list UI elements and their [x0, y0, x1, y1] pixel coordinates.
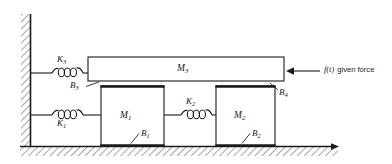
spring-k2-exit: [206, 110, 213, 115]
spring-k1-coil-3: [70, 110, 76, 119]
spring-k2-coil-2: [193, 110, 199, 119]
force-arrow-head: [286, 67, 294, 74]
wall-hatching: [21, 14, 30, 147]
ground-hatching: [20, 147, 338, 156]
spring-k3-entry: [52, 68, 59, 73]
spring-label-k3: K3: [57, 55, 66, 65]
damper-label-b1: B1: [141, 129, 150, 139]
fixed-wall: [21, 14, 31, 147]
applied-force-label: f(t)given force: [324, 66, 374, 74]
damper-b3-leader: [86, 82, 99, 87]
spring-k1-entry: [52, 110, 59, 115]
spring-k1-coil-2: [64, 110, 70, 119]
spring-k1: [31, 110, 101, 119]
mass-m1-body: [100, 86, 164, 146]
spring-k3-coil-2: [64, 68, 70, 77]
spring-k3: [31, 68, 88, 77]
damper-label-b4: B4: [279, 88, 288, 98]
fixed-ground: [20, 143, 339, 156]
spring-label-k1: K1: [57, 119, 66, 129]
spring-label-k2: K2: [186, 97, 195, 107]
spring-k2-entry: [181, 110, 188, 115]
spring-k3-coil-1: [58, 68, 64, 77]
mass-m1-outline: [101, 86, 164, 146]
mass-m2-outline: [216, 86, 275, 146]
spring-k2: [164, 110, 216, 119]
spring-k2-coil-1: [187, 110, 193, 119]
damper-label-b3: B3: [70, 81, 79, 91]
spring-k3-coil-3: [70, 68, 76, 77]
damper-label-b2: B2: [252, 129, 261, 139]
spring-k3-exit: [77, 68, 84, 73]
diagram-canvas: [0, 0, 392, 164]
mass-label-m1: M1: [120, 111, 131, 122]
mass-label-m2: M2: [234, 111, 245, 122]
mass-m2-body: [215, 86, 275, 146]
mechanical-system-diagram: M3 M1 M2 K3 K1 K2 B3 B4 B1 B2 f(t)given …: [0, 0, 392, 164]
spring-k2-coil-3: [199, 110, 205, 119]
mass-label-m3: M3: [177, 64, 188, 75]
applied-force-arrow: [286, 67, 320, 74]
spring-k1-exit: [77, 110, 84, 115]
